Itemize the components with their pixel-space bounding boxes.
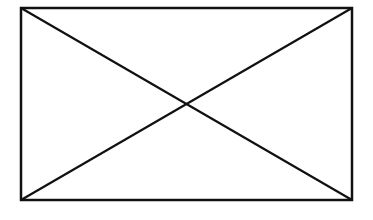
diagram-canvas	[0, 0, 373, 220]
